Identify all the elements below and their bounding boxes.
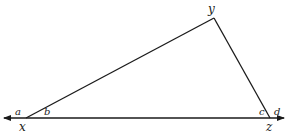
vertex-label-x: x (19, 121, 26, 133)
vertex-label-y: y (208, 3, 215, 15)
vertex-label-z: z (266, 121, 272, 133)
side-yz (214, 18, 270, 118)
angle-label-b: b (44, 107, 50, 117)
side-xy (26, 18, 214, 118)
angle-label-c: c (259, 107, 265, 117)
angle-label-a: a (15, 107, 21, 117)
angle-label-d: d (274, 107, 280, 117)
